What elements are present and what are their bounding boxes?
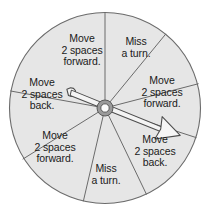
hub-inner-hole xyxy=(101,104,109,112)
spinner-figure: Move 2 spaces forward. Miss a turn. Move… xyxy=(0,0,209,217)
spinner-graphic xyxy=(0,0,209,217)
